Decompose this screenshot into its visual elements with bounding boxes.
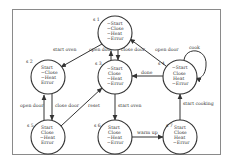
- edge-label-warm-up: warm up: [137, 130, 158, 135]
- prop-error: Error: [41, 140, 55, 145]
- prop-error: ~Error: [107, 140, 124, 145]
- edge-label-done: done: [141, 70, 153, 75]
- edge-label-start-cooking: start cooking: [183, 101, 214, 107]
- prop-start: ~Start: [172, 65, 188, 70]
- prop-error: ~Error: [107, 81, 124, 86]
- edge-label-start-oven-s1-s2: start oven: [53, 47, 77, 52]
- edge-label-reset: reset: [88, 103, 100, 108]
- state-s1: s 1 ~Start ~Close ~Heat ~Error: [93, 16, 132, 50]
- microwave-state-diagram: start oven open door close door open doo…: [0, 0, 230, 166]
- state-id: s 3: [95, 61, 102, 66]
- edge-label-open-door-s5-s2: open door: [20, 103, 44, 108]
- state-s7: s 7 Start Close Heat ~Error: [163, 120, 197, 154]
- edge-label-start-oven-s3-s6: start oven: [118, 103, 142, 108]
- prop-error: Error: [41, 80, 55, 85]
- edge-label-close-door-s2-s5: close door: [55, 103, 80, 108]
- state-s5: s 5 Start Close ~Heat Error: [27, 120, 65, 154]
- state-id: s 5: [27, 123, 34, 128]
- state-id: s 7: [166, 123, 173, 128]
- state-s2: s 2 Start ~Close ~Heat Error: [26, 59, 65, 94]
- state-s4: s 4 ~Start Close Heat ~Error: [158, 60, 197, 94]
- edge-label-open-door-s4-s1: open door: [155, 47, 179, 52]
- state-id: s 2: [26, 59, 33, 64]
- state-s6: s 6 Start Close ~Heat ~Error: [94, 120, 132, 154]
- prop-error: ~Error: [173, 140, 190, 145]
- state-id: s 1: [93, 17, 100, 22]
- state-id: s 4: [158, 61, 165, 66]
- prop-error: ~Error: [107, 36, 124, 41]
- state-id: s 6: [94, 123, 101, 128]
- edge-label-cook: cook: [189, 45, 200, 50]
- prop-error: ~Error: [172, 81, 189, 86]
